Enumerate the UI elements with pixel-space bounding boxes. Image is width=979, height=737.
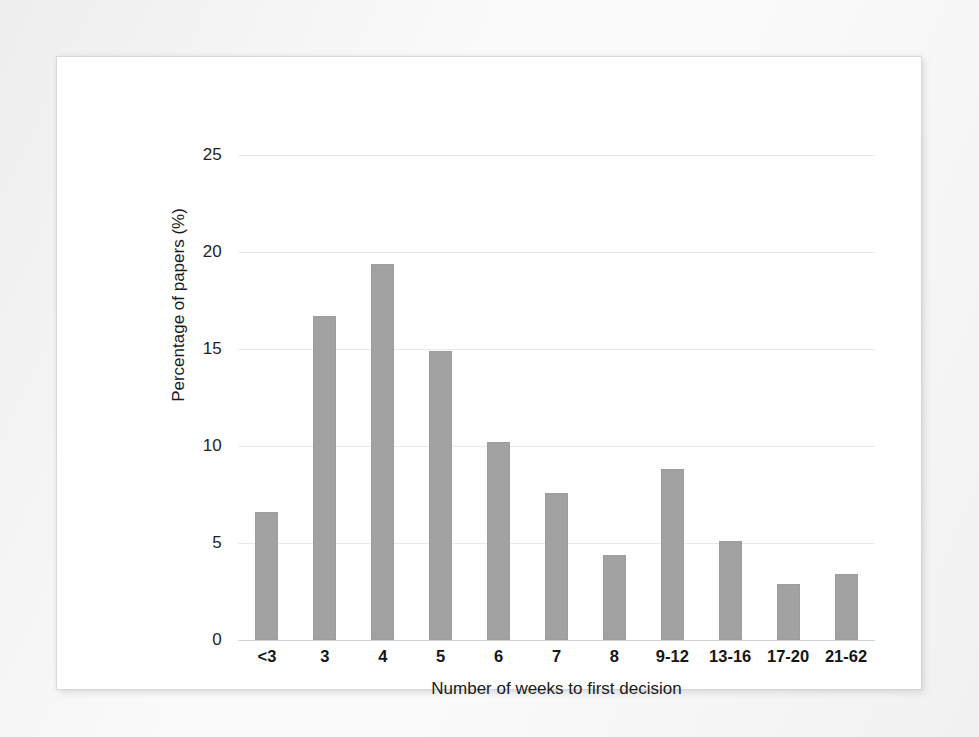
x-axis-tick-label: 7	[528, 647, 586, 666]
bar-slot	[296, 155, 354, 640]
y-axis-tick-label: 20	[203, 242, 222, 262]
bar-slot	[585, 155, 643, 640]
bar	[719, 541, 742, 640]
y-axis-tick-label: 15	[203, 339, 222, 359]
y-axis-title: Percentage of papers (%)	[169, 175, 189, 435]
bar-slot	[701, 155, 759, 640]
chart-panel: Percentage of papers (%) 0510152025 <334…	[57, 57, 921, 689]
bar	[487, 442, 510, 640]
y-axis-tick-label: 5	[212, 533, 222, 553]
chart-page: Percentage of papers (%) 0510152025 <334…	[0, 0, 979, 737]
x-axis-tick-label: 6	[470, 647, 528, 666]
x-axis-tick-label: 3	[296, 647, 354, 666]
x-axis-tick-label: 13-16	[701, 647, 759, 666]
x-axis-title: Number of weeks to first decision	[238, 679, 875, 699]
bar	[661, 469, 684, 640]
x-axis-tick-label: 5	[412, 647, 470, 666]
bar-slot	[238, 155, 296, 640]
x-axis-tick-label: 17-20	[759, 647, 817, 666]
bar	[777, 584, 800, 640]
bar-slot	[470, 155, 528, 640]
x-axis-tick-label: 21-62	[817, 647, 875, 666]
y-axis-tick-label: 25	[203, 145, 222, 165]
bar	[255, 512, 278, 640]
bar	[429, 351, 452, 640]
x-axis-tick-label: <3	[238, 647, 296, 666]
bar	[603, 555, 626, 640]
x-axis-tick-label: 4	[354, 647, 412, 666]
axis-baseline	[238, 640, 875, 641]
y-axis-tick-label: 10	[203, 436, 222, 456]
bar-slot	[643, 155, 701, 640]
bar	[371, 264, 394, 640]
y-axis-tick-label: 0	[212, 630, 222, 650]
plot-area: 0510152025	[238, 155, 875, 640]
bar-slot	[528, 155, 586, 640]
x-axis-tick-label: 9-12	[643, 647, 701, 666]
bar-slot	[759, 155, 817, 640]
bar	[545, 493, 568, 640]
bar-slot	[817, 155, 875, 640]
bar-slot	[354, 155, 412, 640]
bar-series	[238, 155, 875, 640]
x-axis-tick-label: 8	[585, 647, 643, 666]
bar-slot	[412, 155, 470, 640]
bar	[835, 574, 858, 640]
bar	[313, 316, 336, 640]
x-axis-tick-labels: <33456789-1213-1617-2021-62	[238, 647, 875, 666]
